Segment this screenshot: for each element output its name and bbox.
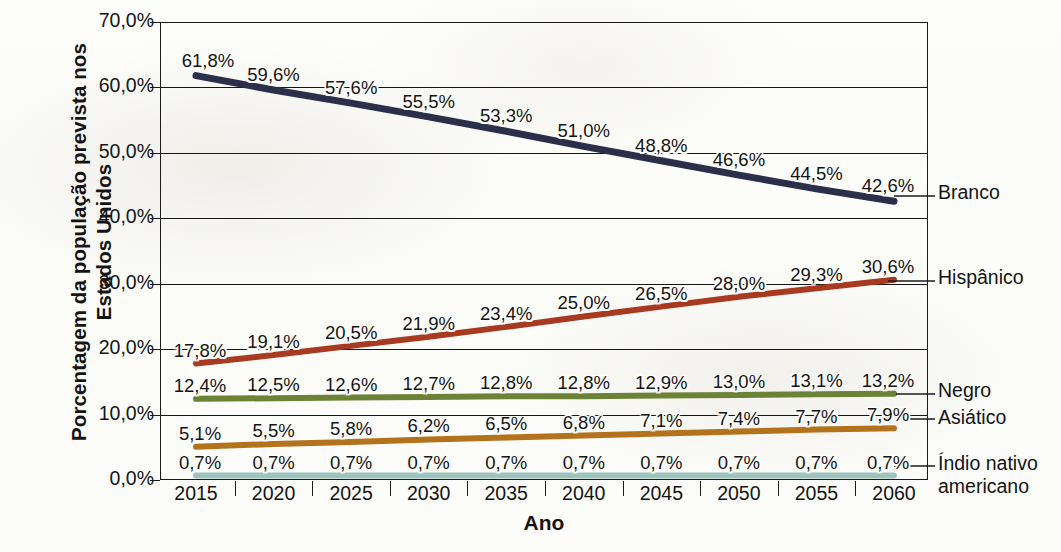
data-label: 0,7% [485,452,527,474]
chart-figure: Porcentagem da população prevista nos Es… [0,0,1061,552]
data-label: 0,7% [330,452,372,474]
data-label: 0,7% [563,452,605,474]
x-tick-label: 2060 [849,482,939,505]
data-label: 53,3% [480,105,532,127]
data-label: 7,1% [640,410,682,432]
data-label: 44,5% [790,163,842,185]
data-label: 28,0% [713,273,765,295]
data-label: 12,4% [174,375,226,397]
y-axis-tick-labels: 0,0%10,0%20,0%30,0%40,0%50,0%60,0%70,0% [54,0,154,552]
data-label: 0,7% [718,452,760,474]
y-tick-label: 0,0% [62,467,154,490]
data-label: 13,2% [862,370,914,392]
x-tick-label: 2035 [461,482,551,505]
data-label: 13,0% [713,371,765,393]
x-tick-label: 2015 [151,482,241,505]
data-label: 7,4% [718,408,760,430]
data-label: 12,7% [402,373,454,395]
data-label: 12,9% [635,372,687,394]
data-label: 48,8% [635,135,687,157]
data-label: 26,5% [635,283,687,305]
x-tick-label: 2045 [616,482,706,505]
data-label: 13,1% [790,370,842,392]
data-label: 0,7% [179,452,221,474]
x-tick-label: 2055 [771,482,861,505]
data-label: 6,5% [485,413,527,435]
data-label: 55,5% [402,91,454,113]
data-label: 0,7% [408,452,450,474]
data-label: 29,3% [790,264,842,286]
data-label: 6,8% [563,412,605,434]
data-label: 0,7% [867,452,909,474]
data-label: 61,8% [182,50,234,72]
y-tick-label: 30,0% [62,271,154,294]
x-tick-label: 2040 [539,482,629,505]
data-label: 12,8% [558,372,610,394]
data-label: 57,6% [325,77,377,99]
data-label: 0,7% [640,452,682,474]
data-label: 5,1% [179,423,221,445]
data-label: 5,5% [252,420,294,442]
x-tick-label: 2020 [229,482,319,505]
data-label: 23,4% [480,303,532,325]
y-tick-label: 10,0% [62,402,154,425]
legend-item-branco: Branco [938,181,1000,204]
data-label: 59,6% [247,64,299,86]
data-label: 17,8% [174,340,226,362]
data-label: 6,2% [408,415,450,437]
data-label: 7,7% [795,406,837,428]
y-tick-label: 60,0% [62,74,154,97]
legend-item-asiático: Asiático [938,406,1006,429]
y-tick-label: 20,0% [62,336,154,359]
y-tick-label: 40,0% [62,205,154,228]
data-label: 20,5% [325,322,377,344]
legend-item-negro: Negro [938,379,991,402]
data-label: 21,9% [402,313,454,335]
legend-item-índio-nativo-americano: Índio nativo americano [938,452,1038,498]
y-tick-label: 70,0% [62,9,154,32]
data-label: 12,6% [325,374,377,396]
x-axis-title: Ano [160,511,928,535]
data-label: 0,7% [252,452,294,474]
data-label: 42,6% [862,175,914,197]
data-label: 25,0% [558,292,610,314]
x-tick-label: 2030 [384,482,474,505]
legend-item-hispânico: Hispânico [938,266,1024,289]
x-tick-label: 2050 [694,482,784,505]
data-label: 0,7% [795,452,837,474]
data-label: 30,6% [862,256,914,278]
data-label: 19,1% [247,331,299,353]
data-label: 7,9% [867,404,909,426]
data-label: 12,8% [480,372,532,394]
data-label: 46,6% [713,149,765,171]
data-label: 51,0% [558,120,610,142]
data-label: 5,8% [330,418,372,440]
y-tick-label: 50,0% [62,140,154,163]
data-label: 12,5% [247,374,299,396]
x-tick-label: 2025 [306,482,396,505]
